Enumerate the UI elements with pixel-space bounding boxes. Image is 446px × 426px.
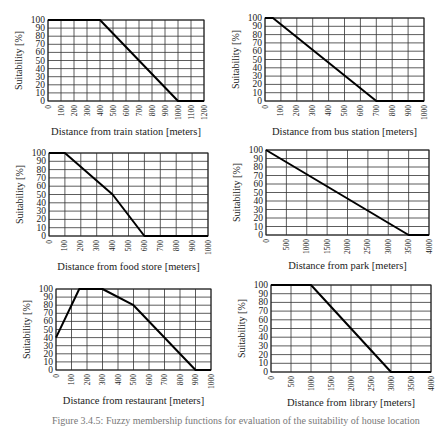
y-tick-label: 90 [254, 154, 264, 164]
x-tick-label: 600 [140, 240, 149, 252]
x-tick-label: 100 [57, 105, 66, 117]
x-tick-label: 200 [76, 240, 85, 252]
x-tick-label: 2500 [367, 376, 376, 391]
x-tick-label: 1000 [174, 105, 183, 120]
x-axis-label: Distance from bus station [meters] [272, 126, 417, 137]
x-tick-label: 200 [83, 374, 92, 386]
x-tick-label: 800 [176, 374, 185, 386]
y-tick-label: 50 [259, 324, 269, 334]
x-tick-label: 500 [282, 239, 291, 251]
x-tick-label: 900 [161, 105, 170, 117]
x-tick-label: 300 [92, 240, 101, 252]
y-tick-label: 80 [254, 162, 264, 172]
y-tick-label: 10 [254, 222, 264, 232]
x-tick-label: 200 [292, 105, 301, 117]
y-tick-label: 10 [259, 358, 269, 368]
x-tick-label: 800 [172, 240, 181, 252]
x-tick-label: 900 [404, 105, 413, 117]
x-tick-label: 1000 [302, 239, 311, 254]
x-tick-label: 700 [156, 240, 165, 252]
x-tick-label: 1000 [207, 374, 216, 389]
y-tick-label: 20 [259, 350, 269, 360]
x-tick-label: 200 [70, 105, 79, 117]
grid [48, 20, 204, 101]
x-tick-label: 100 [60, 240, 69, 252]
x-tick-label: 0 [44, 105, 53, 109]
x-tick-label: 2500 [363, 239, 372, 254]
x-tick-label: 400 [108, 240, 117, 252]
x-tick-label: 100 [276, 105, 285, 117]
x-tick-label: 2000 [343, 239, 352, 254]
x-tick-label: 0 [267, 376, 276, 380]
y-axis-label: Suitability [%] [236, 299, 247, 358]
x-tick-label: 500 [109, 105, 118, 117]
chart-5: 0102030405060708090100050010001500200025… [236, 280, 436, 408]
x-tick-label: 1200 [200, 105, 209, 120]
y-tick-label: 0 [258, 230, 263, 240]
x-axis-label: Distance from library [meters] [287, 397, 415, 408]
x-tick-label: 1000 [420, 105, 429, 120]
y-tick-label: 30 [254, 205, 264, 215]
chart-0: 0102030405060708090100010020030040050060… [13, 15, 209, 137]
x-tick-label: 400 [324, 105, 333, 117]
x-tick-label: 800 [388, 105, 397, 117]
y-tick-label: 60 [259, 315, 269, 325]
y-tick-label: 100 [248, 13, 263, 23]
x-axis-label: Distance from train station [meters] [51, 126, 201, 137]
chart-1: 0102030405060708090100010020030040050060… [230, 13, 429, 137]
x-tick-label: 3000 [387, 376, 396, 391]
x-tick-label: 300 [83, 105, 92, 117]
x-tick-label: 500 [287, 376, 296, 388]
y-tick-label: 50 [254, 188, 264, 198]
x-tick-label: 900 [188, 240, 197, 252]
grid [49, 153, 208, 236]
x-tick-label: 0 [262, 239, 271, 243]
chart-2: 0102030405060708090100010020030040050060… [14, 148, 213, 272]
x-tick-label: 300 [98, 374, 107, 386]
chart-4: 0102030405060708090100010020030040050060… [21, 284, 216, 406]
x-axis-label: Distance from park [meters] [288, 260, 407, 271]
y-tick-label: 100 [249, 145, 264, 155]
y-axis-label: Suitability [%] [13, 31, 24, 90]
y-tick-label: 100 [31, 15, 46, 25]
x-tick-label: 300 [308, 105, 317, 117]
x-tick-label: 1500 [327, 376, 336, 391]
y-tick-label: 100 [39, 284, 54, 294]
x-tick-label: 700 [160, 374, 169, 386]
y-axis-label: Suitability [%] [231, 163, 242, 222]
y-tick-label: 70 [259, 306, 269, 316]
x-tick-label: 1500 [323, 239, 332, 254]
x-axis-label: Distance from restaurant [meters] [63, 395, 204, 406]
x-tick-label: 600 [145, 374, 154, 386]
x-tick-label: 3500 [404, 239, 413, 254]
x-tick-label: 700 [372, 105, 381, 117]
y-axis-label: Suitability [%] [21, 300, 32, 359]
y-tick-label: 20 [254, 213, 264, 223]
y-tick-label: 70 [254, 171, 264, 181]
x-tick-label: 600 [122, 105, 131, 117]
y-tick-label: 30 [259, 341, 269, 351]
x-tick-label: 1000 [307, 376, 316, 391]
x-tick-label: 100 [67, 374, 76, 386]
y-tick-label: 60 [254, 179, 264, 189]
x-tick-label: 500 [340, 105, 349, 117]
x-tick-label: 500 [124, 240, 133, 252]
grid [266, 150, 429, 235]
x-tick-label: 400 [114, 374, 123, 386]
y-axis-label: Suitability [%] [14, 165, 25, 224]
y-axis-label: Suitability [%] [230, 30, 241, 89]
x-tick-label: 1000 [204, 240, 213, 255]
x-tick-label: 700 [135, 105, 144, 117]
x-tick-label: 800 [148, 105, 157, 117]
x-tick-label: 4000 [427, 376, 436, 391]
x-tick-label: 600 [356, 105, 365, 117]
x-axis-label: Distance from food store [meters] [57, 261, 199, 272]
x-tick-label: 400 [96, 105, 105, 117]
x-tick-label: 0 [52, 374, 61, 378]
figure-caption: Figure 3.4.5: Fuzzy membership functions… [52, 415, 420, 426]
x-tick-label: 3500 [407, 376, 416, 391]
y-tick-label: 0 [263, 367, 268, 377]
x-tick-label: 4000 [425, 239, 434, 254]
x-tick-label: 0 [45, 240, 54, 244]
